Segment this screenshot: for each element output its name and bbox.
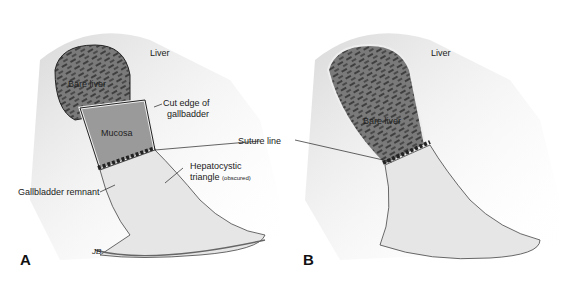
artist-signature: JB <box>92 248 101 256</box>
panel-b: Liver Bare liver B <box>283 0 565 283</box>
panel-a: Liver Bare liver Cut edge of gallbadder … <box>0 0 283 283</box>
label-bare-liver-a: Bare liver <box>68 80 106 89</box>
panel-letter-b: B <box>303 251 314 268</box>
label-suture-line: Suture line <box>238 137 281 146</box>
label-liver-b: Liver <box>431 49 451 58</box>
label-gallbladder-remnant: Gallbladder remnant <box>18 188 100 197</box>
label-bare-liver-b: Bare liver <box>363 117 401 126</box>
label-cut-edge-2: gallbadder <box>167 110 209 119</box>
label-liver-a: Liver <box>150 49 170 58</box>
label-cut-edge: Cut edge of <box>163 99 210 108</box>
panel-letter-a: A <box>20 251 31 268</box>
label-mucosa: Mucosa <box>101 129 133 138</box>
label-hepatocystic: Hepatocystic <box>190 162 242 171</box>
label-triangle: triangle (obscured) <box>190 173 251 182</box>
